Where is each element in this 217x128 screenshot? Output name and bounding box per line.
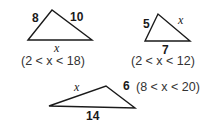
triangle-2-range-label: (2 < x < 12) <box>131 54 195 68</box>
triangle-1-right-side-label: 10 <box>70 10 84 24</box>
triangle-1-range-label: (2 < x < 18) <box>21 54 85 68</box>
triangle-2: 5 x 7 (2 < x < 12) <box>131 13 195 68</box>
triangle-3: x 6 14 (8 < x < 20) <box>49 79 200 123</box>
triangle-2-left-side-label: 5 <box>143 17 150 31</box>
triangle-3-base-label: 14 <box>86 109 100 123</box>
triangle-1-left-side-label: 8 <box>32 11 39 25</box>
triangle-3-range-label: (8 < x < 20) <box>136 80 200 94</box>
triangle-3-right-side-label: 6 <box>123 79 130 93</box>
triangle-2-right-side-label: x <box>177 13 184 27</box>
triangle-1: 8 10 x (2 < x < 18) <box>21 10 92 68</box>
triangle-1-base-label: x <box>53 41 60 55</box>
triangle-inequality-diagram: 8 10 x (2 < x < 18) 5 x 7 (2 < x < 12) x… <box>0 0 217 128</box>
triangle-3-left-side-label: x <box>73 80 80 94</box>
